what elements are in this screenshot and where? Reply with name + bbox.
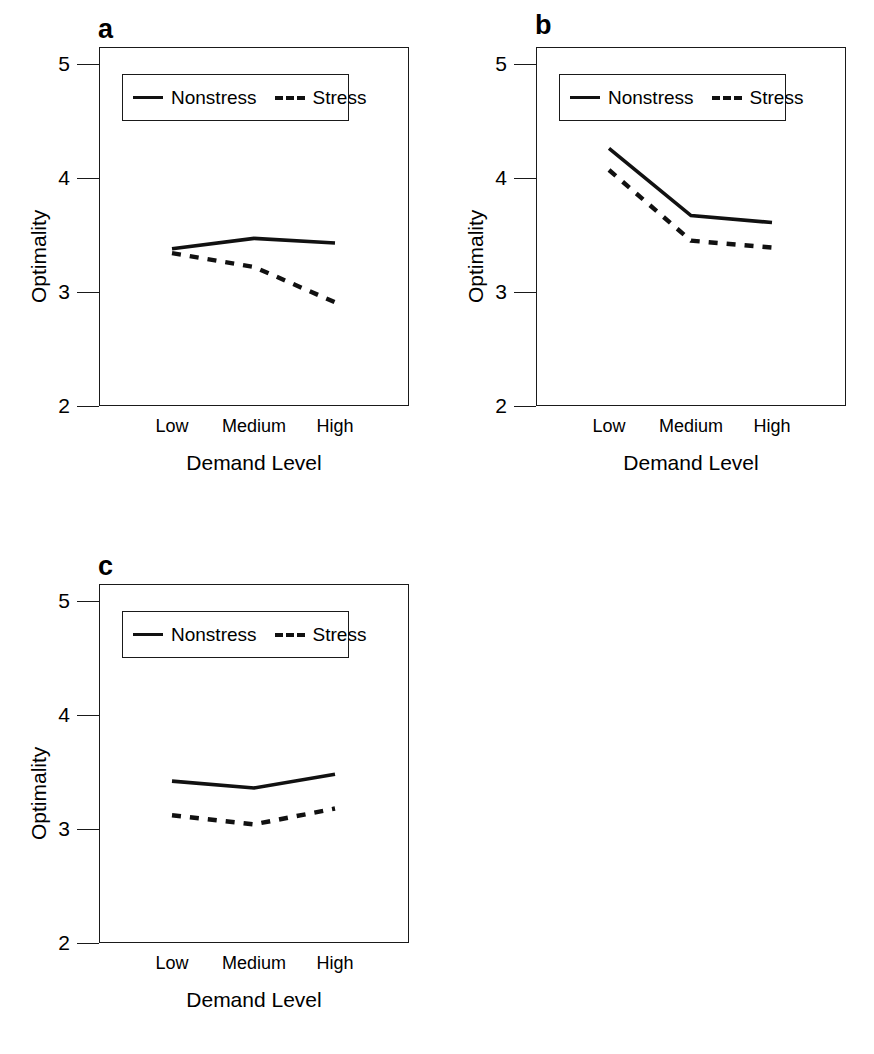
x-tick-label-low-c: Low	[140, 954, 204, 972]
x-tick-label-medium-c: Medium	[214, 954, 294, 972]
series-line-nonstress-a	[172, 238, 335, 248]
x-tick-label-high-c: High	[303, 954, 367, 972]
x-axis-title-a: Demand Level	[99, 452, 409, 473]
chart-panel-c: c 5 4 3 2 Optimality Nonstress Stress Lo…	[0, 500, 437, 1054]
chart-panel-b: b 5 4 3 2 Optimality Nonstress Stress Lo…	[437, 0, 874, 500]
series-line-stress-c	[172, 809, 335, 825]
series-line-nonstress-c	[172, 774, 335, 788]
x-axis-title-c: Demand Level	[99, 989, 409, 1010]
x-tick-label-high-b: High	[740, 417, 804, 435]
series-line-nonstress-b	[609, 148, 772, 222]
x-tick-label-high-a: High	[303, 417, 367, 435]
x-tick-label-low-b: Low	[577, 417, 641, 435]
x-tick-label-medium-b: Medium	[651, 417, 731, 435]
chart-panel-a: a 5 4 3 2 Optimality Nonstress Stress Lo…	[0, 0, 437, 500]
x-axis-title-b: Demand Level	[536, 452, 846, 473]
x-tick-label-medium-a: Medium	[214, 417, 294, 435]
series-line-stress-b	[609, 170, 772, 248]
series-line-stress-a	[172, 253, 335, 302]
x-tick-label-low-a: Low	[140, 417, 204, 435]
